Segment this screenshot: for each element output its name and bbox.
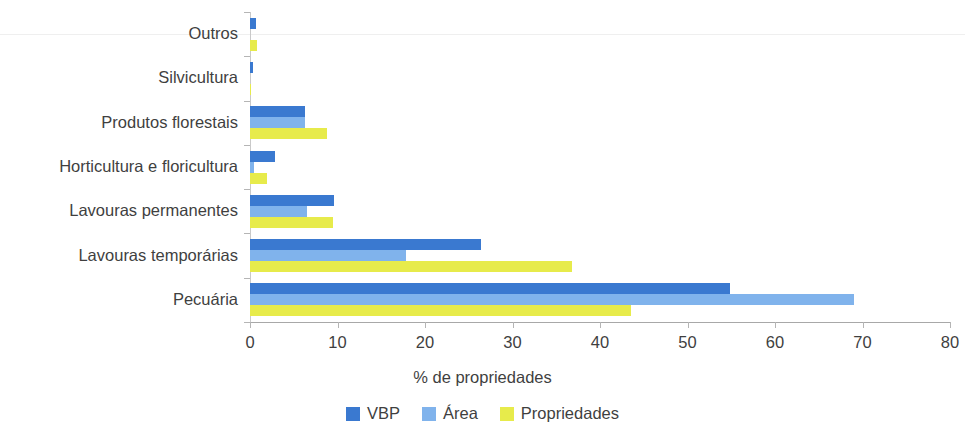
x-tick-label-0: 0 [245, 333, 254, 352]
x-tick-60 [775, 322, 776, 328]
y-axis-label-6: Pecuária [0, 290, 238, 309]
x-tick-20 [425, 322, 426, 328]
legend-item-propriedades[interactable]: Propriedades [500, 404, 619, 423]
y-axis-label-0: Outros [0, 24, 238, 43]
legend-item-rea[interactable]: Área [422, 404, 478, 423]
x-tick-40 [600, 322, 601, 328]
legend-label: VBP [367, 404, 400, 423]
legend-swatch-icon [422, 407, 436, 421]
legend-swatch-icon [346, 407, 360, 421]
bar-rea-4 [250, 206, 307, 217]
x-axis-title: % de propriedades [0, 368, 965, 387]
x-tick-30 [513, 322, 514, 328]
legend-label: Área [443, 404, 478, 423]
plot-area [250, 12, 950, 322]
x-tick-label-30: 30 [503, 333, 521, 352]
bar-propriedades-1 [250, 84, 251, 95]
bar-vbp-0 [250, 18, 256, 29]
y-axis-label-5: Lavouras temporárias [0, 246, 238, 265]
bar-vbp-4 [250, 195, 334, 206]
x-tick-80 [950, 322, 951, 328]
bar-vbp-5 [250, 239, 481, 250]
bar-rea-6 [250, 294, 854, 305]
bar-rea-5 [250, 250, 406, 261]
x-tick-label-40: 40 [591, 333, 609, 352]
x-tick-label-60: 60 [766, 333, 784, 352]
legend-item-vbp[interactable]: VBP [346, 404, 400, 423]
bar-propriedades-6 [250, 305, 631, 316]
legend-label: Propriedades [521, 404, 619, 423]
bar-vbp-1 [250, 62, 253, 73]
bar-vbp-2 [250, 106, 305, 117]
x-tick-50 [688, 322, 689, 328]
x-tick-70 [863, 322, 864, 328]
bar-propriedades-2 [250, 128, 327, 139]
x-tick-0 [250, 322, 251, 328]
y-axis-label-4: Lavouras permanentes [0, 201, 238, 220]
bar-rea-2 [250, 117, 305, 128]
x-tick-label-80: 80 [941, 333, 959, 352]
legend-swatch-icon [500, 407, 514, 421]
y-axis-label-3: Horticultura e floricultura [0, 157, 238, 176]
bar-chart: OutrosSilviculturaProdutos florestaisHor… [0, 0, 965, 434]
y-axis-labels: OutrosSilviculturaProdutos florestaisHor… [0, 0, 238, 330]
x-tick-10 [338, 322, 339, 328]
bar-propriedades-3 [250, 173, 267, 184]
x-tick-label-50: 50 [678, 333, 696, 352]
bar-propriedades-4 [250, 217, 333, 228]
x-tick-label-70: 70 [853, 333, 871, 352]
y-axis-label-1: Silvicultura [0, 68, 238, 87]
bar-propriedades-0 [250, 40, 257, 51]
x-tick-label-10: 10 [328, 333, 346, 352]
chart-legend: VBPÁreaPropriedades [0, 404, 965, 423]
bar-vbp-3 [250, 151, 275, 162]
bar-vbp-6 [250, 283, 730, 294]
bar-rea-3 [250, 162, 254, 173]
bar-propriedades-5 [250, 261, 572, 272]
x-tick-label-20: 20 [416, 333, 434, 352]
y-axis-label-2: Produtos florestais [0, 113, 238, 132]
